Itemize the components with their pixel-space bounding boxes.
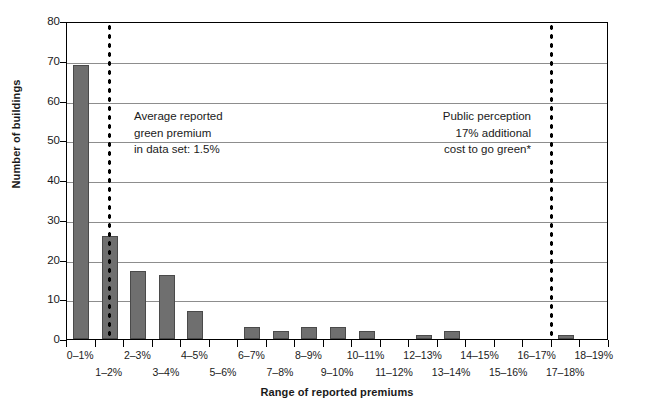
- x-tick-label: 18–19%: [564, 350, 624, 361]
- annotation-average-line-2: green premium: [134, 125, 223, 142]
- annotation-average-line-3: in data set: 1.5%: [134, 141, 223, 158]
- annotation-perception-line-3: cost to go green*: [403, 141, 531, 158]
- y-tick-label: 70: [34, 56, 60, 67]
- y-tick-label: 10: [34, 294, 60, 305]
- x-tick-label: 11–12%: [364, 367, 424, 378]
- bar: [73, 65, 89, 339]
- x-tick-label: 1–2%: [79, 367, 139, 378]
- x-tick-mark: [66, 340, 67, 347]
- x-tick-label: 12–13%: [393, 350, 453, 361]
- x-tick-mark: [351, 340, 352, 347]
- x-tick-label: 9–10%: [307, 367, 367, 378]
- x-tick-mark: [608, 340, 609, 347]
- histogram-figure: Number of buildings 80706050403020100 Av…: [0, 0, 647, 412]
- x-tick-mark: [579, 340, 580, 347]
- annotation-average-reported-premium: Average reported green premium in data s…: [134, 108, 223, 158]
- y-tick-label: 20: [34, 255, 60, 266]
- reference-line-average-reported-premium: [107, 23, 112, 339]
- x-tick-label: 16–17%: [507, 350, 567, 361]
- x-tick-mark: [209, 340, 210, 347]
- annotation-perception-line-2: 17% additional: [403, 125, 531, 142]
- annotation-perception-line-1: Public perception: [403, 108, 531, 125]
- x-tick-mark: [180, 340, 181, 347]
- x-tick-label: 3–4%: [136, 367, 196, 378]
- x-tick-mark: [408, 340, 409, 347]
- x-tick-mark: [437, 340, 438, 347]
- bar: [558, 335, 574, 339]
- bars-layer: [67, 23, 607, 339]
- x-tick-label: 14–15%: [450, 350, 510, 361]
- x-tick-mark: [123, 340, 124, 347]
- y-tick-label: 30: [34, 215, 60, 226]
- bar: [301, 327, 317, 339]
- plot-area: [66, 22, 608, 340]
- y-axis-title: Number of buildings: [10, 14, 22, 254]
- x-tick-mark: [465, 340, 466, 347]
- y-tick-label: 80: [34, 16, 60, 27]
- x-tick-label: 7–8%: [250, 367, 310, 378]
- bar: [330, 327, 346, 339]
- x-tick-label: 13–14%: [421, 367, 481, 378]
- x-tick-mark: [551, 340, 552, 347]
- bar: [359, 331, 375, 339]
- reference-line-public-perception: [549, 23, 554, 339]
- bar: [444, 331, 460, 339]
- bar: [159, 275, 175, 339]
- x-tick-label: 10–11%: [336, 350, 396, 361]
- x-tick-mark: [237, 340, 238, 347]
- annotation-public-perception: Public perception 17% additional cost to…: [403, 108, 531, 158]
- y-tick-label: 60: [34, 96, 60, 107]
- y-tick-label: 0: [34, 334, 60, 345]
- x-tick-mark: [380, 340, 381, 347]
- x-tick-label: 17–18%: [535, 367, 595, 378]
- x-tick-mark: [494, 340, 495, 347]
- y-tick-label: 40: [34, 175, 60, 186]
- bar: [244, 327, 260, 339]
- x-tick-label: 2–3%: [107, 350, 167, 361]
- x-axis-title: Range of reported premiums: [66, 386, 608, 398]
- x-tick-label: 8–9%: [278, 350, 338, 361]
- x-tick-label: 15–16%: [478, 367, 538, 378]
- x-tick-label: 4–5%: [164, 350, 224, 361]
- annotation-average-line-1: Average reported: [134, 108, 223, 125]
- x-tick-mark: [522, 340, 523, 347]
- x-tick-mark: [266, 340, 267, 347]
- x-tick-label: 5–6%: [193, 367, 253, 378]
- x-tick-mark: [95, 340, 96, 347]
- bar: [187, 311, 203, 339]
- x-tick-mark: [294, 340, 295, 347]
- x-tick-label: 0–1%: [50, 350, 110, 361]
- x-tick-label: 6–7%: [221, 350, 281, 361]
- x-tick-mark: [323, 340, 324, 347]
- x-tick-mark: [152, 340, 153, 347]
- bar: [130, 271, 146, 339]
- y-tick-label: 50: [34, 135, 60, 146]
- bar: [416, 335, 432, 339]
- bar: [273, 331, 289, 339]
